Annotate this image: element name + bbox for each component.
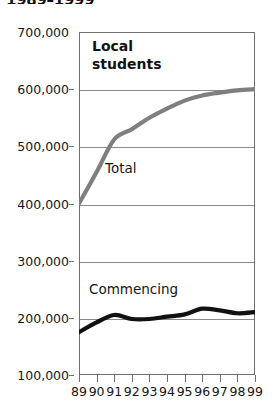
x-tick-mark [79,375,80,382]
y-tick-mark [69,318,74,319]
y-axis: 100,000200,000300,000400,000500,000600,0… [0,32,74,375]
x-tick-mark [114,375,115,382]
series-label-total: Total [105,160,137,176]
x-tick-mark [255,375,256,382]
x-tick-mark [220,375,221,382]
x-tick-mark [185,375,186,382]
series-line-total [79,89,255,203]
y-tick-label: 300,000 [17,253,69,268]
x-tick-label: 95 [177,384,193,399]
x-tick-label: 89 [71,384,87,399]
x-tick-label: 98 [229,384,245,399]
y-tick-label: 600,000 [17,82,69,97]
y-tick-label: 200,000 [17,310,69,325]
x-tick-mark [97,375,98,382]
x-tick-label: 99 [247,384,263,399]
x-tick-label: 90 [89,384,105,399]
series-line-commencing [79,309,255,333]
y-tick-label: 500,000 [17,139,69,154]
x-tick-mark [167,375,168,382]
y-tick-label: 700,000 [17,25,69,40]
series-lines [79,32,255,375]
y-tick-mark [69,146,74,147]
x-tick-label: 93 [141,384,157,399]
panel-heading-line-0: Local [92,38,162,56]
x-tick-label: 97 [212,384,228,399]
x-axis: 8990919293949596979899 [79,375,255,420]
x-tick-label: 94 [159,384,175,399]
x-tick-mark [202,375,203,382]
x-tick-mark [132,375,133,382]
x-tick-label: 96 [194,384,210,399]
series-label-commencing: Commencing [89,281,178,297]
y-tick-mark [69,375,74,376]
y-tick-mark [69,204,74,205]
x-tick-mark [149,375,150,382]
y-tick-label: 100,000 [17,368,69,383]
y-tick-label: 400,000 [17,196,69,211]
panel-heading-local-students: Localstudents [92,38,162,73]
y-tick-mark [69,261,74,262]
x-tick-label: 91 [106,384,122,399]
chart-title: 1989–1999 [6,0,94,4]
panel-heading-line-1: students [92,56,162,74]
x-tick-label: 92 [124,384,140,399]
y-tick-mark [69,89,74,90]
x-tick-mark [237,375,238,382]
